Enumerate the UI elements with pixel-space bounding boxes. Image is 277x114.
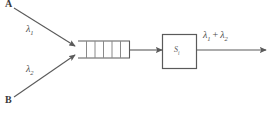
arrow-source-b-to-queue — [14, 55, 75, 97]
server-name-label: Si — [174, 45, 180, 56]
queue-buffer — [78, 41, 130, 58]
diagram-canvas — [0, 0, 277, 114]
queueing-diagram-figure: A B λ1 λ2 Si λ1+λ2 — [0, 0, 277, 114]
lambda-subscript: 2 — [30, 69, 33, 76]
output-plus-sign: + — [211, 29, 221, 40]
lambda-subscript: 1 — [30, 29, 33, 36]
output-rate-label: λ1+λ2 — [203, 29, 228, 42]
source-label-b: B — [5, 94, 12, 105]
arrow-source-a-to-queue — [14, 8, 75, 46]
source-label-a: A — [5, 0, 12, 9]
server-index: i — [178, 50, 180, 56]
arrival-rate-label-lambda2: λ2 — [26, 63, 34, 76]
output-subscript-2: 2 — [225, 35, 228, 42]
arrival-rate-label-lambda1: λ1 — [26, 23, 34, 36]
